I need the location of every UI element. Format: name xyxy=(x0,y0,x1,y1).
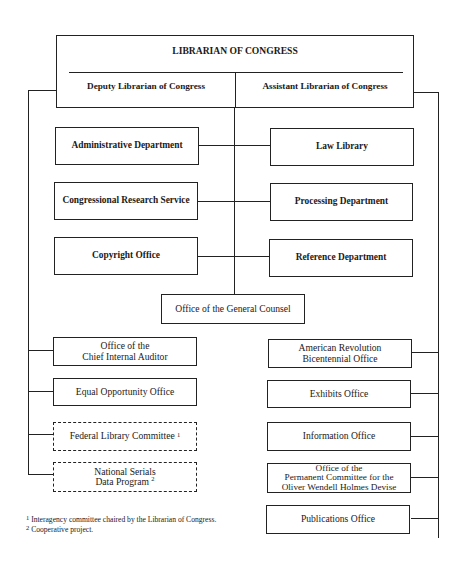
processing-department-box: Processing Department xyxy=(270,183,413,221)
footnote-2: 2 Cooperative project. xyxy=(26,525,216,535)
connector-publications xyxy=(411,518,439,519)
connector-row-3 xyxy=(198,256,270,257)
connector-eeo xyxy=(28,391,54,392)
connector-holmes xyxy=(411,477,439,478)
footnote-1: 1 Interagency committee chaired by the L… xyxy=(26,515,216,525)
holmes-devise-committee-box: Office of the Permanent Committee for th… xyxy=(267,463,411,493)
publications-office-box: Publications Office xyxy=(266,505,410,534)
administrative-department-label: Administrative Department xyxy=(71,141,182,151)
general-counsel-label: Office of the General Counsel xyxy=(175,304,290,314)
exhibits-office-box: Exhibits Office xyxy=(267,380,411,408)
information-office-box: Information Office xyxy=(267,422,411,451)
processing-department-label: Processing Department xyxy=(295,197,388,207)
connector-row-2 xyxy=(198,201,270,202)
american-revolution-bicentennial-office-box: American Revolution Bicentennial Office xyxy=(268,339,412,368)
right-bracket-top xyxy=(414,92,439,93)
copyright-office-box: Copyright Office xyxy=(54,237,198,275)
administrative-department-box: Administrative Department xyxy=(55,127,199,165)
connector-exhibits xyxy=(411,393,439,394)
equal-opportunity-office-label: Equal Opportunity Office xyxy=(76,387,174,397)
law-library-box: Law Library xyxy=(270,128,414,166)
connector-auditor xyxy=(28,350,54,351)
librarian-title: LIBRARIAN OF CONGRESS xyxy=(57,46,413,56)
chief-internal-auditor-box: Office of the Chief Internal Auditor xyxy=(53,337,197,366)
connector-information xyxy=(411,436,439,437)
national-serials-data-program-box: National Serials Data Program 2 xyxy=(53,462,197,492)
federal-library-committee-label: Federal Library Committee xyxy=(70,431,175,441)
congressional-research-service-label: Congressional Research Service xyxy=(62,196,189,206)
left-bracket-top xyxy=(28,90,56,91)
footnote-mark-1: 1 xyxy=(177,432,180,439)
chief-internal-auditor-line2: Chief Internal Auditor xyxy=(82,352,167,362)
general-counsel-box: Office of the General Counsel xyxy=(161,294,305,324)
holmes-line3: Oliver Wendell Holmes Devise xyxy=(282,483,397,492)
deputy-librarian-label: Deputy Librarian of Congress xyxy=(57,82,235,92)
national-serials-line2: Data Program xyxy=(95,476,149,487)
left-bracket-line xyxy=(28,90,29,475)
connector-arbo xyxy=(411,352,439,353)
federal-library-committee-box: Federal Library Committee 1 xyxy=(53,422,197,451)
arbo-line1: American Revolution xyxy=(299,343,382,353)
equal-opportunity-office-box: Equal Opportunity Office xyxy=(53,378,197,406)
reference-department-label: Reference Department xyxy=(296,253,387,263)
publications-office-label: Publications Office xyxy=(301,514,375,524)
footnotes: 1 Interagency committee chaired by the L… xyxy=(26,515,216,536)
assistant-librarian-label: Assistant Librarian of Congress xyxy=(235,82,415,92)
law-library-label: Law Library xyxy=(316,142,368,152)
connector-flc xyxy=(28,434,54,435)
deputy-assistant-divider xyxy=(235,73,236,108)
connector-nsdp xyxy=(28,474,54,475)
congressional-research-service-box: Congressional Research Service xyxy=(54,182,198,220)
reference-department-box: Reference Department xyxy=(269,239,413,277)
exhibits-office-label: Exhibits Office xyxy=(310,389,369,399)
connector-row-1 xyxy=(198,145,270,146)
information-office-label: Information Office xyxy=(303,431,376,441)
arbo-line2: Bicentennial Office xyxy=(302,354,377,364)
copyright-office-label: Copyright Office xyxy=(92,251,160,261)
right-bracket-line xyxy=(438,92,439,538)
chief-internal-auditor-line1: Office of the xyxy=(101,341,150,351)
librarian-box: LIBRARIAN OF CONGRESS Deputy Librarian o… xyxy=(56,35,414,108)
footnote-mark-2: 2 xyxy=(151,475,154,482)
